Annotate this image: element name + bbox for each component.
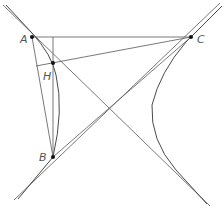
label-B: B <box>39 151 47 164</box>
point-B <box>51 155 55 159</box>
label-C: C <box>197 33 205 46</box>
label-H: H <box>43 70 51 83</box>
side-BC <box>53 37 191 157</box>
line-HC <box>36 37 191 66</box>
point-C <box>189 35 193 39</box>
point-H <box>51 61 55 65</box>
hyperbola-left-branch <box>6 5 59 199</box>
hyperbola-triangle-diagram: A H B C <box>0 0 224 212</box>
side-AB <box>32 37 53 157</box>
hyperbola-right-branch <box>152 6 222 204</box>
point-A <box>30 35 34 39</box>
label-A: A <box>19 33 28 46</box>
